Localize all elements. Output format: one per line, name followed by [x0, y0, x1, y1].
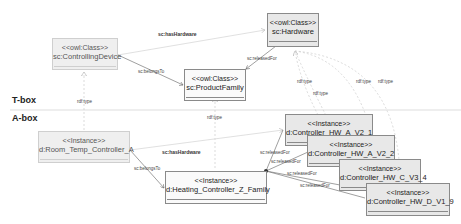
- compartment-divider: [167, 199, 265, 200]
- instance-controller-hw-d-v1-9[interactable]: <<Instance>> d:Controller_HW_D_V1_9: [366, 183, 450, 216]
- compartment-divider: [269, 41, 317, 42]
- edge-label-released-for: sc:releasedFor: [300, 183, 330, 188]
- class-hardware[interactable]: <<owl:Class>> sc:Hardware: [267, 13, 319, 47]
- edge-label-released-for: sc:releasedFor: [247, 56, 277, 61]
- class-name: sc:ProductFamily: [185, 83, 245, 93]
- instance-name: d:Controller_HW_D_V1_9: [367, 197, 449, 207]
- stereotype: <<Instance>>: [367, 188, 449, 197]
- rdf-type-label: rdf:type: [77, 99, 92, 104]
- edge-label-has-hardware: sc:hasHardware: [158, 31, 197, 37]
- rdf-type-label: rdf:type: [207, 115, 222, 120]
- instance-name: d:Room_Temp_Controller_A: [39, 145, 129, 155]
- stereotype: <<owl:Class>>: [53, 43, 117, 52]
- instance-name: d:Controller_HW_A_V2_2: [308, 149, 394, 159]
- class-product-family[interactable]: <<owl:Class>> sc:ProductFamily: [184, 69, 246, 101]
- instance-heating-controller-family[interactable]: <<Instance>> d:Heating_Controller_Z_Fami…: [165, 171, 267, 204]
- instance-name: d:Heating_Controller_Z_Family: [166, 185, 266, 195]
- edge-label-has-hardware: sc:hasHardware: [162, 149, 201, 155]
- class-controlling-device[interactable]: <<owl:Class>> sc:ControllingDevice: [52, 38, 118, 70]
- rdf-type-label: rdf:type: [356, 79, 371, 84]
- instance-room-temp-controller[interactable]: <<Instance>> d:Room_Temp_Controller_A: [38, 131, 130, 163]
- tbox-label: T-box: [12, 95, 36, 105]
- instance-name: d:Controller_HW_C_V3_4: [340, 173, 420, 183]
- compartment-divider: [40, 159, 128, 160]
- compartment-divider: [368, 211, 448, 212]
- edge-label-belongs-to: sc:belongsTo: [134, 166, 160, 171]
- compartment-divider: [186, 97, 244, 98]
- class-name: sc:ControllingDevice: [53, 52, 117, 62]
- stereotype: <<owl:Class>>: [268, 18, 318, 27]
- class-name: sc:Hardware: [268, 27, 318, 37]
- rdf-type-label: rdf:type: [378, 79, 393, 84]
- compartment-divider: [54, 66, 116, 67]
- edge-label-released-for: sc:releasedFor: [287, 171, 317, 176]
- edge-label-released-for: sc:releasedFor: [260, 150, 290, 155]
- edge-label-belongs-to: sc:belongsTo: [138, 69, 164, 74]
- stereotype: <<Instance>>: [39, 136, 129, 145]
- abox-label: A-box: [12, 113, 38, 123]
- edge-label-released-for: sc:releasedFor: [271, 159, 301, 164]
- stereotype: <<Instance>>: [286, 119, 372, 128]
- stereotype: <<Instance>>: [308, 140, 394, 149]
- rdf-type-label: rdf:type: [297, 79, 312, 84]
- ontology-diagram: T-box A-box <<owl:Class>> sc:Controlling…: [0, 0, 461, 224]
- stereotype: <<Instance>>: [166, 176, 266, 185]
- stereotype: <<Instance>>: [340, 164, 420, 173]
- stereotype: <<owl:Class>>: [185, 74, 245, 83]
- rdf-type-label: rdf:type: [313, 91, 328, 96]
